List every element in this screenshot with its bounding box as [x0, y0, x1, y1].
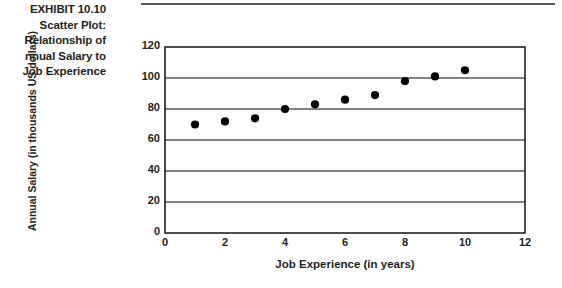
data-point	[461, 66, 469, 74]
data-point	[431, 72, 439, 80]
data-point	[371, 91, 379, 99]
data-point	[311, 100, 319, 108]
data-point	[281, 105, 289, 113]
data-point	[221, 117, 229, 125]
data-points	[191, 66, 469, 128]
x-axis-title: Job Experience (in years)	[165, 258, 525, 270]
data-point	[251, 114, 259, 122]
plot-canvas	[0, 0, 562, 288]
scatter-chart: Annual Salary (in thousands US dollars) …	[0, 0, 562, 288]
data-point	[341, 96, 349, 104]
data-point	[401, 77, 409, 85]
exhibit-figure: EXHIBIT 10.10 Scatter Plot: Relationship…	[0, 0, 562, 288]
data-point	[191, 120, 199, 128]
